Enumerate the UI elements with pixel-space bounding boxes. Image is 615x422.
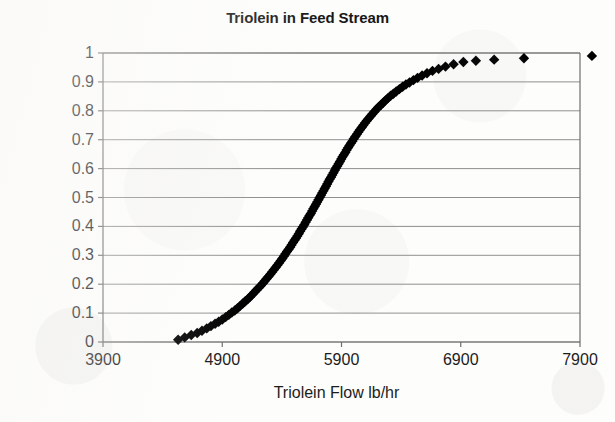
x-axis-tick-label: 5900 [324, 351, 360, 369]
data-point-marker [489, 54, 499, 64]
data-point-marker [587, 51, 597, 61]
data-point-marker [519, 53, 529, 63]
y-axis-tick-label: 0.1 [40, 304, 94, 322]
chart-container: Triolein in Feed Stream 00.10.20.30.40.5… [0, 0, 615, 422]
x-axis-title: Triolein Flow lb/hr [274, 384, 400, 402]
y-axis-tick-label: 0.3 [40, 246, 94, 264]
data-point-marker [448, 59, 458, 69]
x-axis-tick-label: 7900 [562, 351, 598, 369]
y-axis-tick-label: 0.4 [40, 217, 94, 235]
data-point-marker [458, 57, 468, 67]
data-point-marker [471, 56, 481, 66]
axis-ticks [98, 53, 580, 347]
x-axis-tick-label: 4900 [204, 351, 240, 369]
y-axis-tick-label: 0.2 [40, 275, 94, 293]
y-axis-tick-label: 0 [40, 333, 94, 351]
x-axis-tick-label: 6900 [443, 351, 479, 369]
y-axis-tick-label: 0.5 [40, 189, 94, 207]
y-axis-tick-label: 0.6 [40, 160, 94, 178]
y-axis-tick-label: 0.9 [40, 73, 94, 91]
gridlines [103, 53, 580, 342]
y-axis-tick-label: 0.7 [40, 131, 94, 149]
x-axis-tick-label: 3900 [85, 351, 121, 369]
y-axis-tick-label: 0.8 [40, 102, 94, 120]
y-axis-tick-label: 1 [40, 44, 94, 62]
